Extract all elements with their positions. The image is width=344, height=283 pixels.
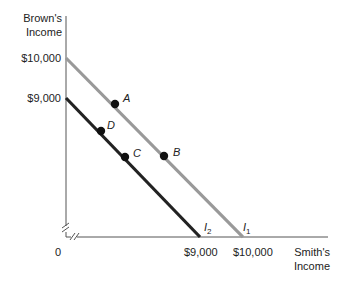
curve-i2-label: I2 (204, 221, 212, 238)
point-a (111, 100, 119, 108)
y-tick-10000: $10,000 (0, 52, 61, 65)
x-tick-9000: $9,000 (184, 246, 218, 259)
y-tick-9000: $9,000 (0, 92, 61, 105)
curve-i1-label: I1 (243, 221, 251, 238)
x-tick-0: 0 (55, 246, 61, 259)
point-d-label: D (107, 119, 115, 132)
point-b (160, 152, 168, 160)
y-axis-label-line1: Brown's (0, 12, 62, 25)
point-d (97, 127, 105, 135)
point-b-label: B (173, 146, 180, 159)
point-c-label: C (133, 147, 141, 160)
x-tick-10000: $10,000 (233, 246, 273, 259)
y-axis-label-line2: Income (0, 26, 62, 39)
curve-i2-label-sub: 2 (207, 227, 211, 236)
x-axis-label-line2: Income (280, 260, 330, 273)
point-a-label: A (123, 92, 130, 105)
indifference-curve-i1 (66, 58, 243, 237)
curve-i1-label-sub: 1 (246, 227, 250, 236)
chart-canvas (0, 0, 344, 283)
point-c (121, 153, 129, 161)
indifference-curve-i2 (66, 98, 200, 237)
x-axis-label-line1: Smith's (280, 246, 330, 259)
